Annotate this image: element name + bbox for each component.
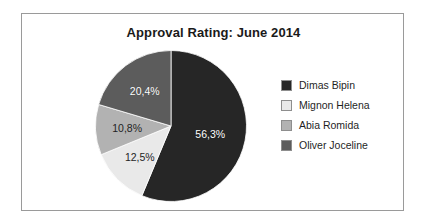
legend-item-label: Abia Romida <box>299 120 359 131</box>
pie-slice-value-label: 10,8% <box>112 122 142 134</box>
pie-slice-value-label: 56,3% <box>195 128 225 140</box>
pie-slice-value-label: 20,4% <box>130 85 160 97</box>
legend-item[interactable]: Oliver Joceline <box>281 135 399 155</box>
legend-color-swatch-icon <box>281 140 292 151</box>
chart-title: Approval Rating: June 2014 <box>22 25 405 40</box>
legend-item-label: Mignon Helena <box>299 100 370 111</box>
legend-item-label: Dimas Bipin <box>299 80 355 91</box>
legend-color-swatch-icon <box>281 120 292 131</box>
legend-color-swatch-icon <box>281 80 292 91</box>
legend-item[interactable]: Mignon Helena <box>281 95 399 115</box>
pie-slice-value-label: 12,5% <box>125 151 155 163</box>
legend-item[interactable]: Dimas Bipin <box>281 75 399 95</box>
chart-legend: Dimas BipinMignon HelenaAbia RomidaOlive… <box>281 75 399 155</box>
legend-item[interactable]: Abia Romida <box>281 115 399 135</box>
legend-item-label: Oliver Joceline <box>299 140 368 151</box>
chart-container: Approval Rating: June 2014 56,3%12,5%10,… <box>21 13 404 211</box>
pie-chart-plot: 56,3%12,5%10,8%20,4% <box>95 50 247 202</box>
legend-color-swatch-icon <box>281 100 292 111</box>
